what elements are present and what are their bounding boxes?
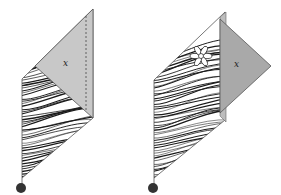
left-flap-label: x (63, 58, 68, 68)
left-pivot-dot (16, 183, 26, 193)
ink-strand (150, 76, 230, 91)
ink-strand (150, 148, 230, 170)
right-pivot-dot (148, 183, 158, 193)
ink-strand (150, 164, 230, 178)
flower-center (199, 54, 204, 59)
right-flap-label: x (234, 59, 239, 69)
ink-strand (150, 49, 230, 68)
ink-strand (150, 155, 230, 172)
left-panel: x (16, 9, 100, 193)
ink-strand (18, 152, 100, 172)
right-flap-triangle (220, 19, 271, 113)
ink-strand (150, 129, 230, 143)
ink-strand (18, 155, 100, 177)
right-panel: x (148, 12, 271, 193)
ink-strand (18, 161, 100, 182)
ink-strand (150, 172, 230, 185)
right-strip-pattern (150, 39, 230, 185)
diagram-canvas: x x (0, 0, 281, 195)
